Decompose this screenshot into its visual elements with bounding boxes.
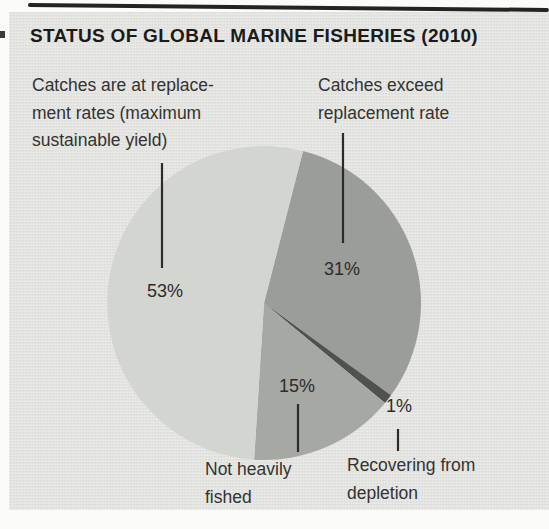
callout-not-heavily-fished: Not heavily fished: [205, 456, 292, 511]
chart-title: STATUS OF GLOBAL MARINE FISHERIES (2010): [30, 25, 530, 47]
callout-msy-line1: Catches are at replace-: [32, 72, 214, 100]
pct-label-recovering: 1%: [386, 396, 412, 417]
callout-not-heavily-line2: fished: [205, 484, 292, 512]
pct-label-msy: 53%: [147, 281, 183, 302]
callout-not-heavily-line1: Not heavily: [205, 456, 292, 484]
pct-label-exceed: 31%: [324, 259, 360, 280]
page-left-edge-mark: [0, 31, 5, 38]
callout-exceed-line1: Catches exceed: [318, 72, 449, 100]
pct-label-not-heavily-fished: 15%: [279, 376, 315, 397]
callout-recovering: Recovering from depletion: [347, 452, 475, 507]
callout-recovering-line1: Recovering from: [347, 452, 475, 480]
callout-recovering-line2: depletion: [347, 480, 475, 508]
callout-exceed: Catches exceed replacement rate: [318, 72, 449, 127]
figure: STATUS OF GLOBAL MARINE FISHERIES (2010)…: [0, 0, 549, 529]
pie-slices: [107, 146, 421, 460]
callout-msy: Catches are at replace- ment rates (maxi…: [32, 72, 214, 155]
callout-exceed-line2: replacement rate: [318, 100, 449, 128]
callout-msy-line2: ment rates (maximum: [32, 100, 214, 128]
callout-msy-line3: sustainable yield): [32, 127, 214, 155]
